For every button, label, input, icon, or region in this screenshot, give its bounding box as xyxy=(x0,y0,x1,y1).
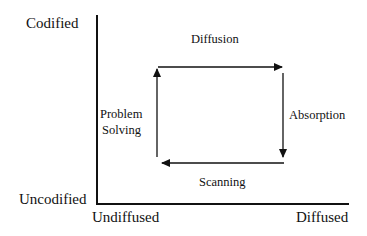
absorption-label: Absorption xyxy=(289,109,345,122)
problem-label: Problem xyxy=(100,108,142,121)
diffused-label: Diffused xyxy=(296,210,348,225)
codified-label: Codified xyxy=(26,16,79,31)
uncodified-label: Uncodified xyxy=(19,192,86,207)
solving-label: Solving xyxy=(102,124,141,137)
undiffused-label: Undiffused xyxy=(92,210,159,225)
scanning-label: Scanning xyxy=(199,176,246,189)
diffusion-label: Diffusion xyxy=(191,33,239,46)
